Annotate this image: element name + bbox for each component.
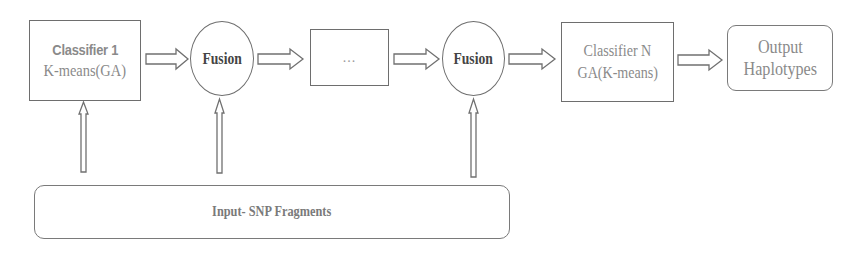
input-snp-fragments-box: Input- SNP Fragments (34, 185, 510, 239)
output-line1: Output (758, 36, 803, 58)
classifier-1-title: Classifier 1 (52, 40, 118, 59)
output-line2: Haplotypes (743, 58, 817, 80)
arrow-input-to-fusion2 (469, 99, 478, 177)
classifier-n-title: Classifier N (584, 41, 652, 61)
fusion-1-circle: Fusion (190, 21, 254, 96)
classifier-1-subtitle: K-means(GA) (44, 61, 126, 81)
classifier-1-box: Classifier 1 K-means(GA) (29, 20, 141, 101)
ellipsis-label: ... (343, 50, 357, 66)
output-haplotypes-box: Output Haplotypes (727, 25, 833, 91)
arrow-classifiern-to-output (678, 50, 722, 70)
fusion-2-label: Fusion (454, 50, 493, 68)
arrow-classifier1-to-fusion1 (146, 49, 188, 69)
fusion-2-circle: Fusion (442, 21, 505, 96)
arrow-input-to-classifier1 (79, 102, 88, 172)
arrow-fusion2-to-classifiern (509, 49, 555, 69)
arrow-ellipsis-to-fusion2 (394, 49, 439, 69)
arrow-fusion1-to-ellipsis (258, 49, 303, 69)
classifier-n-box: Classifier N GA(K-means) (561, 22, 674, 102)
input-label: Input- SNP Fragments (212, 204, 331, 220)
classifier-n-subtitle: GA(K-means) (577, 63, 658, 83)
fusion-1-label: Fusion (202, 50, 241, 68)
ellipsis-box: ... (310, 29, 389, 86)
arrow-input-to-fusion1 (215, 99, 224, 173)
diagram-canvas: Classifier 1 K-means(GA) Fusion ... Fusi… (0, 0, 860, 258)
